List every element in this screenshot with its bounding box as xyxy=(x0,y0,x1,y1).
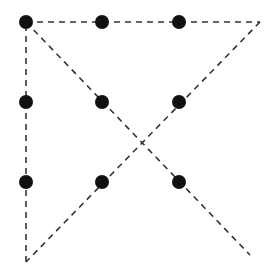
dot xyxy=(19,95,33,109)
dot xyxy=(95,95,109,109)
dot xyxy=(95,175,109,189)
dot xyxy=(95,15,109,29)
dot xyxy=(19,175,33,189)
dashed-line-segment xyxy=(26,22,250,255)
dot xyxy=(172,15,186,29)
dashed-line-segment xyxy=(26,22,260,262)
dot xyxy=(172,175,186,189)
dot xyxy=(172,95,186,109)
nine-dot-diagram xyxy=(0,0,276,280)
dashed-solution-path xyxy=(26,22,260,262)
dot xyxy=(19,15,33,29)
